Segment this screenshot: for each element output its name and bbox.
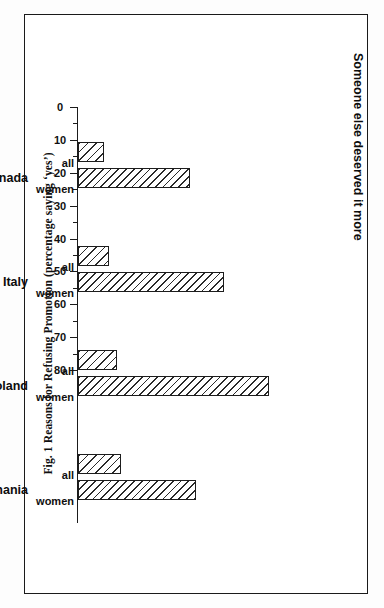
bar-chart: Someone else deserved it more 0102030405… [51,49,363,537]
axis-tick-major [70,107,77,108]
axis-tick-major [70,239,77,240]
category-label-poland: Poland [0,379,28,393]
figure-page: Fig. 1 Reasons for Refusing Promotion (p… [0,0,384,608]
category-label-canada: Canada [0,171,28,185]
bar-poland-women [78,376,269,396]
axis-tick-label: 30 [54,200,66,212]
chart-rotation-wrapper: Someone else deserved it more 0102030405… [51,49,363,537]
axis-tick-major [70,173,77,174]
bar-canada-all [78,142,104,162]
series-label-all: all [62,157,74,169]
bar-canada-women [78,168,190,188]
axis-tick-major [70,140,77,141]
bar-romania-all [78,454,121,474]
series-label-women: women [36,183,74,195]
axis-tick-major [70,304,77,305]
category-label-italy: Italy [3,275,28,289]
axis-tick-label: 40 [54,233,66,245]
plot-area [78,107,341,523]
page-border: Fig. 1 Reasons for Refusing Promotion (p… [24,14,368,594]
axis-tick-label: 70 [54,331,66,343]
axis-tick-minor [73,123,77,124]
series-label-all: all [62,365,74,377]
series-label-women: women [36,391,74,403]
axis-tick-minor [73,255,77,256]
series-label-women: women [36,495,74,507]
axis-tick-major [70,206,77,207]
category-label-romania: Romania [0,483,28,497]
axis-tick-minor [73,321,77,322]
series-label-women: women [36,287,74,299]
bar-italy-all [78,246,109,266]
series-label-all: all [62,261,74,273]
bar-poland-all [78,350,117,370]
bar-italy-women [78,272,224,292]
axis-tick-major [70,337,77,338]
series-label-all: all [62,469,74,481]
value-axis: 01020304050607080 [77,107,78,523]
axis-tick-minor [73,354,77,355]
axis-tick-label: 10 [54,134,66,146]
axis-tick-label: 0 [57,101,63,113]
axis-tick-minor [73,222,77,223]
chart-title: Someone else deserved it more [351,53,365,353]
axis-tick-label: 60 [54,298,66,310]
bar-romania-women [78,480,196,500]
